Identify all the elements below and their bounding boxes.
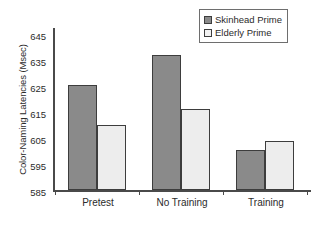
legend-item-elderly-prime: Elderly Prime [204,26,282,39]
bar-group [139,28,223,190]
bar-skinhead-prime-no-training [152,55,181,190]
bar-group [223,28,307,190]
bar-elderly-prime-pretest [97,125,126,190]
plot-area [53,28,311,190]
bar-group [55,28,139,190]
y-tick-label: 645 [20,32,46,42]
y-tick-label: 585 [20,188,46,198]
x-axis-tick [223,191,224,195]
legend-label: Skinhead Prime [215,14,282,25]
bar-chart: Color-Naming Latencies (Msec) 645 635 62… [0,0,321,227]
y-axis-tick-labels: 645 635 625 615 605 595 585 [18,0,46,227]
bar-elderly-prime-no-training [181,109,210,190]
x-tick-label-pretest: Pretest [82,197,114,208]
x-axis-tick [55,191,56,195]
legend-swatch-icon [204,16,212,24]
y-tick-label: 625 [20,84,46,94]
x-tick-label-no-training: No Training [156,197,207,208]
legend: Skinhead Prime Elderly Prime [199,9,288,43]
legend-item-skinhead-prime: Skinhead Prime [204,13,282,26]
bar-skinhead-prime-training [236,150,265,191]
bar-elderly-prime-training [265,141,294,190]
x-axis-line [53,190,311,192]
x-axis-tick [139,191,140,195]
bar-skinhead-prime-pretest [68,85,97,190]
y-tick-label: 605 [20,136,46,146]
y-tick-label: 615 [20,110,46,120]
y-tick-label: 635 [20,58,46,68]
x-axis-tick [307,191,308,195]
y-tick-label: 595 [20,162,46,172]
x-tick-label-training: Training [248,197,284,208]
legend-swatch-icon [204,29,212,37]
legend-label: Elderly Prime [215,27,272,38]
